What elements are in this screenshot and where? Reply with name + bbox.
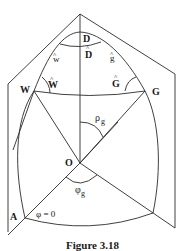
label-phi-zero: φ = 0 bbox=[36, 209, 56, 219]
label-D: D bbox=[83, 33, 90, 44]
label-D-hat: D bbox=[85, 49, 92, 60]
label-rho-sub: g bbox=[101, 117, 105, 126]
angle-arc-phi bbox=[66, 175, 97, 183]
angle-arc-G bbox=[125, 77, 136, 91]
label-phi-sub: g bbox=[81, 189, 85, 198]
label-G-hat: G bbox=[112, 78, 120, 89]
line-O-right bbox=[80, 163, 175, 228]
label-g-hat: g bbox=[110, 53, 115, 63]
angle-arc-D bbox=[60, 42, 101, 47]
label-G: G bbox=[152, 86, 160, 97]
label-A: A bbox=[10, 211, 18, 222]
label-W: W bbox=[20, 84, 30, 95]
outer-frame bbox=[8, 14, 175, 232]
label-W-hat: W bbox=[48, 79, 58, 90]
line-W-O bbox=[34, 91, 80, 163]
figure-caption: Figure 3.18 bbox=[0, 239, 185, 251]
label-w-hat: w bbox=[53, 54, 60, 64]
line-W-down bbox=[13, 91, 34, 150]
arc-W-G bbox=[34, 91, 145, 96]
line-O-A bbox=[8, 163, 80, 235]
angle-arc-rho bbox=[80, 122, 103, 137]
label-O: O bbox=[65, 157, 73, 168]
label-rho: ρ bbox=[95, 112, 100, 123]
line-O-to-G-ray bbox=[80, 122, 118, 163]
